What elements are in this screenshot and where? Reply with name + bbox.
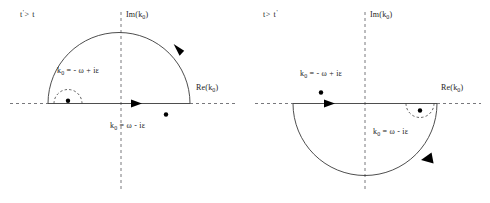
pole-label-right-sub: 0 (114, 125, 117, 131)
imaginary-axis-label: Im(k0) (126, 11, 148, 19)
pole-label-left: k0 = - ω + iε (57, 67, 99, 75)
pole-marker-left (319, 90, 323, 94)
imaginary-axis-label-sub: 0 (386, 14, 389, 20)
real-axis-label-pre: Re(k (196, 83, 212, 92)
contour-direction-arrow-arc (174, 44, 185, 56)
pole-label-right-post: = ω - iε (380, 127, 408, 136)
pole-label-right-post: = ω - iε (117, 121, 145, 130)
pole-label-left-sub: 0 (304, 73, 307, 79)
pole-marker-right (418, 108, 422, 112)
panel-right-diagram (245, 0, 490, 203)
contour-diagram-figure: t'> t Im(k0) Re(k0) k0 = - ω + iε k0 = ω… (0, 0, 490, 203)
real-axis-label: Re(k0) (441, 84, 463, 92)
time-condition-label: t'> t (20, 11, 35, 19)
time-condition-prime: ' (276, 8, 278, 15)
imaginary-axis-label: Im(k0) (370, 11, 392, 19)
time-condition-label: t> t' (263, 11, 278, 19)
pole-label-right: k0 = ω - iε (373, 128, 408, 136)
real-axis-label-pre: Re(k (441, 83, 457, 92)
imaginary-axis-label-pre: Im(k (126, 10, 142, 19)
pole-label-left-post: = - ω + iε (64, 66, 99, 75)
contour-direction-arrow-arc (421, 153, 434, 164)
panel-left-diagram (0, 0, 245, 203)
pole-label-left-sub: 0 (61, 70, 64, 76)
pole-marker-left (66, 99, 70, 103)
pole-label-right: k0 = ω - iε (110, 122, 145, 130)
contour-direction-arrow-real (131, 100, 142, 108)
imaginary-axis-label-pre: Im(k (370, 10, 386, 19)
time-condition-op: > t (25, 10, 36, 19)
panel-right: t> t' Im(k0) Re(k0) k0 = - ω + iε k0 = ω… (245, 0, 490, 203)
time-condition-op: > t (266, 10, 277, 19)
pole-label-left-post: = - ω + iε (307, 69, 342, 78)
time-condition-prime: ' (23, 8, 25, 15)
pole-label-left: k0 = - ω + iε (300, 70, 342, 78)
imaginary-axis-label-sub: 0 (142, 14, 145, 20)
real-axis-label-sub: 0 (212, 87, 215, 93)
pole-marker-right (164, 112, 168, 116)
real-axis-label: Re(k0) (196, 84, 218, 92)
pole-label-right-sub: 0 (377, 131, 380, 137)
panel-left: t'> t Im(k0) Re(k0) k0 = - ω + iε k0 = ω… (0, 0, 245, 203)
real-axis-label-sub: 0 (457, 87, 460, 93)
contour-direction-arrow-real (324, 100, 335, 108)
